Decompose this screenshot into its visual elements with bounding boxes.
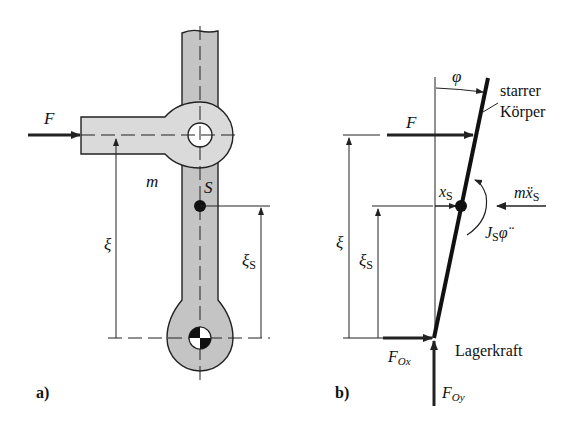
bearing-label: Lagerkraft: [455, 342, 523, 360]
center-of-mass-label: S: [204, 178, 213, 197]
angle-phi-text: φ: [452, 67, 461, 86]
figure-b: φ starrer Körper F ξ ξS xS mẍS JSφ̈ FOx …: [335, 67, 546, 406]
inertia-moment-label: JSφ̈: [485, 224, 514, 244]
body-label-line2: Körper: [500, 103, 546, 121]
xs-label: xS: [438, 183, 453, 203]
panel-label-b: b): [335, 384, 349, 402]
dim-xi-label: ξ: [104, 235, 112, 254]
mechanics-diagram: F ξ m S ξS a) φ starrer Körper F: [0, 0, 579, 422]
dim-xi-s-label: ξS: [242, 251, 256, 272]
center-of-mass-dot-b: [455, 200, 467, 212]
inertia-force-label: mẍS: [514, 184, 539, 204]
pivot-icon: [189, 327, 211, 349]
force-f-label-b: F: [405, 113, 417, 132]
force-f-label: F: [43, 109, 55, 128]
figure-a: F ξ m S ξS a): [28, 26, 270, 402]
mass-label: m: [146, 172, 158, 191]
bearing-fx-label: FOx: [387, 348, 411, 367]
panel-label-a: a): [36, 384, 49, 402]
bearing-fy-label: FOy: [441, 384, 465, 403]
body-label-line1: starrer: [500, 82, 542, 99]
dim-xi-s-label-b: ξS: [359, 251, 373, 272]
dim-xi-label-b: ξ: [336, 233, 344, 252]
diagram-svg: F ξ m S ξS a) φ starrer Körper F: [0, 0, 579, 422]
